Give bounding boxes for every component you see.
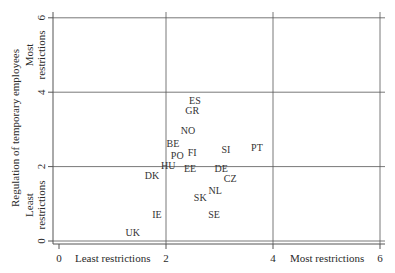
point-label: SE	[208, 209, 220, 220]
y-tick-label: 0	[35, 238, 47, 244]
y-annotation-high: Most restrictions	[23, 31, 47, 80]
x-tick-label: 4	[270, 252, 276, 264]
svg-text:restrictions: restrictions	[35, 31, 47, 80]
point-label: PT	[251, 142, 263, 153]
y-tick-label: 6	[35, 15, 47, 21]
point-label: PO	[171, 150, 184, 161]
data-labels: ESGRNOBEPOFISIPTHUDKEEDECZNLSKSEIEUK	[126, 95, 263, 238]
point-label: EE	[184, 163, 196, 174]
x-annotation-high: Most restrictions	[290, 252, 364, 264]
x-annotation-low: Least restrictions	[75, 252, 150, 264]
y-annotation-low: Least restrictions	[23, 181, 47, 230]
point-label: NL	[209, 185, 222, 196]
point-label: HU	[161, 160, 176, 171]
point-label: DK	[145, 170, 160, 181]
svg-text:Least: Least	[23, 193, 35, 217]
point-label: SK	[194, 192, 208, 203]
scatter-chart: 0246 0246 ESGRNOBEPOFISIPTHUDKEEDECZNLSK…	[0, 0, 395, 273]
x-tick-label: 6	[377, 252, 383, 264]
y-axis-label: Regulation of temporary employees	[9, 49, 21, 207]
point-label: IE	[152, 209, 161, 220]
x-tick-label: 2	[163, 252, 169, 264]
svg-text:Most: Most	[23, 44, 35, 67]
point-label: NO	[181, 125, 195, 136]
point-label: BE	[167, 138, 180, 149]
y-tick-label: 4	[35, 89, 47, 95]
point-label: SI	[221, 144, 230, 155]
point-label: UK	[126, 227, 141, 238]
svg-text:restrictions: restrictions	[35, 181, 47, 230]
point-label: GR	[185, 105, 199, 116]
point-label: FI	[188, 147, 197, 158]
x-tick-label: 0	[56, 252, 62, 264]
y-tick-label: 2	[35, 164, 47, 170]
point-label: CZ	[224, 173, 237, 184]
